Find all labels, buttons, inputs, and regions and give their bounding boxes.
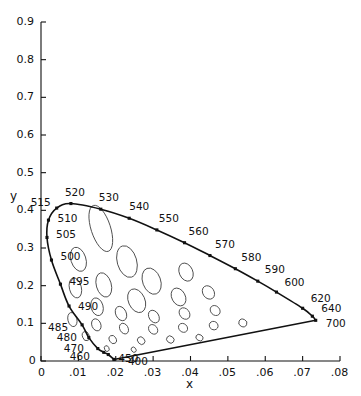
wavelength-label-530: 530 xyxy=(99,191,119,203)
x-tick-label: .07 xyxy=(293,366,311,379)
x-tick-label: .03 xyxy=(144,366,162,379)
y-axis-title: y xyxy=(10,189,17,203)
locus-point-marker xyxy=(59,283,62,286)
wavelength-label-700: 700 xyxy=(326,317,346,329)
y-tick-label: 0.7 xyxy=(16,90,34,103)
wavelength-label-485: 485 xyxy=(48,321,68,333)
locus-point-marker xyxy=(81,323,84,326)
wavelength-label-550: 550 xyxy=(159,212,179,224)
locus-point-marker xyxy=(107,353,110,356)
wavelength-label-590: 590 xyxy=(265,263,285,275)
macadam-ellipse xyxy=(108,334,118,345)
wavelength-label-600: 600 xyxy=(284,276,304,288)
wavelength-label-510: 510 xyxy=(57,212,77,224)
wavelength-label-500: 500 xyxy=(60,250,80,262)
wavelength-label-540: 540 xyxy=(129,200,149,212)
wavelength-label-470: 470 xyxy=(64,342,84,354)
y-tick-label: 0 xyxy=(29,354,36,367)
locus-point-marker xyxy=(311,315,314,318)
macadam-ellipse xyxy=(147,323,160,336)
locus-point-marker xyxy=(183,241,186,244)
x-tick-label: .01 xyxy=(69,366,87,379)
locus-point-marker xyxy=(69,202,72,205)
locus-point-marker xyxy=(45,236,48,239)
locus-point-marker xyxy=(50,259,53,262)
x-tick-label: .05 xyxy=(219,366,237,379)
locus-point-marker xyxy=(128,217,131,220)
x-tick-label: 0 xyxy=(38,366,45,379)
y-tick-label: 0.1 xyxy=(16,316,34,329)
macadam-ellipse xyxy=(177,322,190,335)
wavelength-label-515: 515 xyxy=(31,196,51,208)
wavelength-label-495: 495 xyxy=(69,275,89,287)
macadam-ellipse xyxy=(168,285,189,308)
macadam-ellipse xyxy=(237,318,248,328)
chromaticity-diagram-figure: 0.01.02.03.04.05.06.07.0800.10.20.30.40.… xyxy=(0,0,361,396)
y-tick-label: 0.9 xyxy=(16,15,34,28)
x-axis-title: x xyxy=(186,377,193,391)
macadam-ellipse xyxy=(118,322,131,336)
macadam-ellipse xyxy=(139,265,165,297)
locus-point-marker xyxy=(314,319,317,322)
macadam-ellipse xyxy=(136,335,147,346)
locus-point-marker xyxy=(301,307,304,310)
macadam-ellipse xyxy=(146,308,161,325)
macadam-ellipse xyxy=(113,243,141,279)
locus-point-marker xyxy=(67,304,70,307)
macadam-ellipse xyxy=(113,304,129,322)
macadam-ellipse xyxy=(93,271,114,299)
locus-point-marker xyxy=(47,219,50,222)
locus-point-marker xyxy=(275,291,278,294)
macadam-ellipse xyxy=(177,306,192,322)
wavelength-label-580: 580 xyxy=(241,251,261,263)
y-tick-label: 0.2 xyxy=(16,279,34,292)
macadam-ellipse xyxy=(208,320,220,332)
locus-point-marker xyxy=(99,208,102,211)
wavelength-label-520: 520 xyxy=(65,186,85,198)
x-tick-label: .06 xyxy=(256,366,274,379)
y-tick-label: 0.8 xyxy=(16,53,34,66)
macadam-ellipse xyxy=(176,261,196,284)
x-tick-label: .08 xyxy=(331,366,349,379)
macadam-ellipse xyxy=(90,317,103,332)
locus-point-marker xyxy=(155,228,158,231)
macadam-ellipse-layer xyxy=(66,202,248,353)
locus-point-marker xyxy=(208,254,211,257)
locus-point-marker xyxy=(87,336,90,339)
macadam-ellipse xyxy=(165,334,175,344)
x-tick-label: .02 xyxy=(106,366,124,379)
y-tick-label: 0.6 xyxy=(16,128,34,141)
locus-point-marker xyxy=(256,280,259,283)
macadam-ellipse xyxy=(208,303,222,317)
macadam-ellipse xyxy=(200,283,217,301)
y-tick-label: 0.5 xyxy=(16,166,34,179)
locus-point-marker xyxy=(102,351,105,354)
locus-point-marker xyxy=(112,358,115,361)
macadam-ellipse xyxy=(195,333,205,342)
wavelength-label-490: 490 xyxy=(78,300,98,312)
y-tick-label: 0.3 xyxy=(16,241,34,254)
locus-point-marker xyxy=(234,267,237,270)
wavelength-label-450: 450 xyxy=(118,352,138,364)
wavelength-label-640: 640 xyxy=(321,302,341,314)
wavelength-label-560: 560 xyxy=(189,225,209,237)
wavelength-label-570: 570 xyxy=(215,238,235,250)
locus-point-marker xyxy=(96,347,99,350)
locus-point-marker xyxy=(55,207,58,210)
wavelength-label-505: 505 xyxy=(56,228,76,240)
plot-canvas xyxy=(0,0,361,396)
macadam-ellipse xyxy=(124,286,149,315)
